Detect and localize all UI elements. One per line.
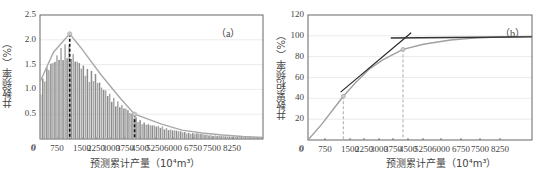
histogram-bar <box>66 58 68 139</box>
y-tick-label: 40 <box>295 92 304 102</box>
marker-point <box>401 47 405 51</box>
y-tick-label: 1.0 <box>25 83 36 93</box>
histogram-bar <box>156 127 158 139</box>
x-tick-label: 5250 <box>146 143 164 153</box>
histogram-bar <box>194 134 196 139</box>
x-tick-label: 8250 <box>223 143 241 153</box>
histogram-bar <box>119 107 121 139</box>
x-tick-label: 6000 <box>164 143 182 153</box>
histogram-bar <box>76 62 78 139</box>
histogram-bar <box>231 137 233 139</box>
histogram-bar <box>184 132 186 139</box>
histogram-bar <box>135 117 137 139</box>
histogram-bar <box>180 131 182 139</box>
y-tick-label: 0.5 <box>25 108 36 118</box>
histogram-bar <box>79 63 81 139</box>
chart-panel-a: 井数频率（%） （a） 预测累计产量（10⁴m³） 2.52.01.51.00.… <box>0 0 270 179</box>
marker-point <box>132 112 136 116</box>
histogram-bar <box>97 83 99 139</box>
histogram-bar <box>127 110 129 139</box>
histogram-bar <box>220 136 222 139</box>
histogram-bar <box>178 131 180 139</box>
histogram-bar <box>145 125 147 139</box>
histogram-bar <box>81 69 83 139</box>
histogram-bar <box>46 68 48 139</box>
histogram-bar <box>52 63 54 139</box>
histogram-bar <box>64 44 66 139</box>
y-axis-label-b: 井数累积频率（%） <box>274 30 289 120</box>
histogram-bar <box>101 88 103 139</box>
x-tick-label: 5250 <box>414 144 432 154</box>
histogram-bar <box>190 134 192 139</box>
histogram-bar <box>60 48 62 139</box>
histogram-bar <box>192 133 194 139</box>
histogram-bar <box>50 64 52 139</box>
histogram-bar <box>152 125 154 139</box>
histogram-bar <box>174 130 176 139</box>
histogram-bar <box>235 137 237 139</box>
histogram-bar <box>222 136 224 139</box>
histogram-bar <box>210 135 212 139</box>
x-tick-label: 6750 <box>184 143 202 153</box>
histogram-bar <box>40 94 42 139</box>
histogram-bar <box>74 62 76 139</box>
x-tick-label: 750 <box>50 143 64 153</box>
histogram-bar <box>137 122 139 139</box>
histogram-bar <box>141 124 143 139</box>
y-tick-label: 80 <box>295 51 304 61</box>
x-axis-label-b: 预测累计产量（10⁴m³） <box>386 155 496 170</box>
histogram-bar <box>89 82 91 139</box>
histogram-bar <box>241 137 243 139</box>
histogram-bar <box>105 90 107 139</box>
histogram-bar <box>147 124 149 139</box>
y-tick-label: 2.5 <box>25 9 36 19</box>
x-tick-label: 750 <box>318 144 332 154</box>
marker-point <box>341 94 345 98</box>
histogram-bar <box>214 135 216 139</box>
histogram-bar <box>62 60 64 139</box>
histogram-bar <box>164 129 166 139</box>
histogram-bar <box>123 108 125 139</box>
histogram-bar <box>107 96 109 139</box>
histogram-bar <box>103 90 105 139</box>
histogram-bar <box>182 132 184 139</box>
histogram-bar <box>143 123 145 139</box>
histogram-bar <box>170 129 172 139</box>
histogram-bar <box>229 137 231 139</box>
x-tick-label: 7500 <box>203 143 221 153</box>
histogram-bar <box>109 94 111 139</box>
histogram-bar <box>58 60 60 139</box>
histogram-bar <box>166 128 168 139</box>
histogram-bar <box>56 55 58 139</box>
histogram-bar <box>212 136 214 139</box>
histogram-bar <box>83 66 85 139</box>
histogram-bar <box>233 137 235 139</box>
x-tick-label: 6750 <box>452 144 470 154</box>
histogram-bar <box>42 79 44 139</box>
histogram-bar <box>131 113 133 139</box>
y-tick-label: 1.5 <box>25 59 36 69</box>
histogram-bar <box>149 125 151 139</box>
histogram-bar <box>87 69 89 139</box>
histogram-bar <box>237 137 239 139</box>
histogram-bar <box>125 109 127 139</box>
histogram-bar <box>70 59 72 139</box>
y-tick-label: 100 <box>291 30 305 40</box>
histogram-bar <box>176 131 178 139</box>
histogram-bar <box>44 81 46 139</box>
histogram-bar <box>121 105 123 139</box>
histogram-bars <box>40 44 262 139</box>
histogram-bar <box>115 106 117 139</box>
histogram-bar <box>224 136 226 139</box>
histogram-bar <box>160 128 162 139</box>
panel-tag-b: （b） <box>500 25 525 40</box>
x-tick-label: 8250 <box>491 144 509 154</box>
panel-tag-a: （a） <box>216 25 240 40</box>
y-tick-label: 120 <box>291 9 305 19</box>
y-tick-label: 2.0 <box>25 34 36 44</box>
histogram-bar <box>186 133 188 139</box>
histogram-bar <box>72 54 74 139</box>
histogram-bar <box>172 130 174 139</box>
histogram-bar <box>227 137 229 139</box>
histogram-bar <box>117 101 119 139</box>
